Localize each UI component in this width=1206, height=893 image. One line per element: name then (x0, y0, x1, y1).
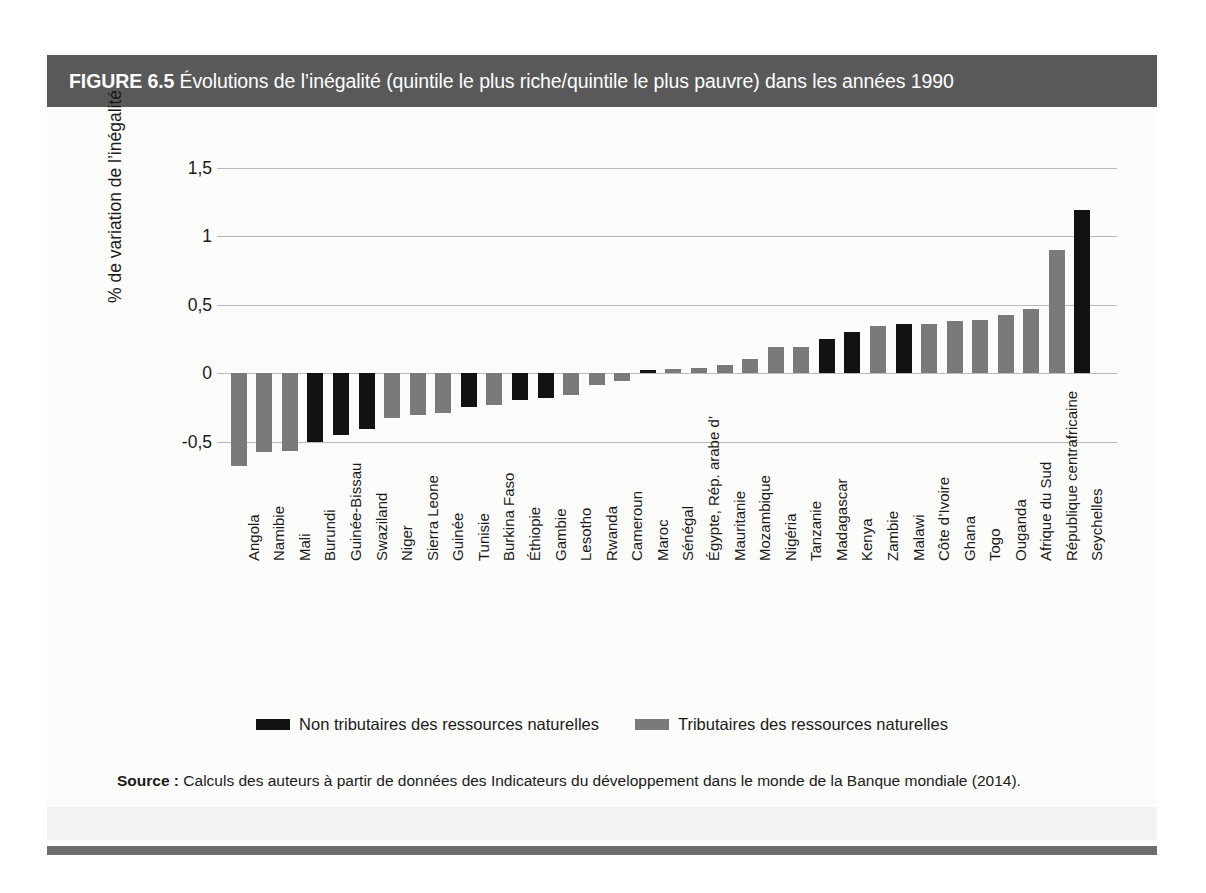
bar--thiopie (512, 373, 528, 400)
x-tick-label: Kenya (858, 518, 875, 561)
x-tick-label: Éthiopie (526, 507, 543, 561)
x-tick-label: Nigéria (782, 513, 799, 561)
bar-angola (231, 373, 247, 466)
x-tick-label: Ghana (961, 516, 978, 561)
x-tick-label: Égypte, Rép. arabe d’ (705, 416, 722, 561)
figure-title-text: Évolutions de l’inégalité (quintile le p… (180, 70, 954, 92)
x-tick-label: Burkina Faso (500, 473, 517, 561)
y-tick-label: -0,5 (152, 431, 212, 452)
x-tick-label: Seychelles (1088, 488, 1105, 561)
x-axis-labels: AngolaNamibieMaliBurundiGuinée-BissauSwa… (217, 555, 1117, 785)
bar-gambie (538, 373, 554, 398)
figure-bottom-rule (47, 846, 1157, 855)
bar-mali (282, 373, 298, 451)
x-tick-label: Cameroun (628, 491, 645, 561)
bar-nig-ria (768, 347, 784, 373)
legend-label: Tributaires des ressources naturelles (678, 715, 948, 734)
bar-burundi (307, 373, 323, 442)
x-tick-label: Malawi (910, 514, 927, 561)
bar-namibie (256, 373, 272, 452)
chart-area: % de variation de l’inégalité 1,510,50-0… (47, 107, 1157, 807)
bar-r-publique-centrafricaine (1049, 250, 1065, 373)
x-tick-label: Ouganda (1012, 499, 1029, 561)
bar-niger (384, 373, 400, 418)
bar-mozambique (742, 359, 758, 373)
bar-swaziland (359, 373, 375, 429)
x-tick-label: Rwanda (603, 506, 620, 561)
x-tick-label: Guinée (449, 513, 466, 561)
bar-togo (972, 320, 988, 373)
x-tick-label: Sénégal (679, 506, 696, 561)
bar-lesotho (563, 373, 579, 395)
bar-afrique-du-sud (1023, 309, 1039, 373)
x-tick-label: Angola (245, 514, 262, 561)
bar--gypte-r-p-arabe-d (691, 368, 707, 373)
source-label: Source : (117, 772, 179, 789)
x-tick-label: Sierra Leone (424, 475, 441, 561)
bar-sierra-leone (410, 373, 426, 415)
figure-page: FIGURE 6.5 Évolutions de l’inégalité (qu… (0, 0, 1206, 893)
y-tick-label: 1,5 (152, 157, 212, 178)
x-tick-label: Namibie (270, 506, 287, 561)
legend-item: Non tributaires des ressources naturelle… (256, 715, 599, 734)
x-tick-label: Niger (398, 525, 415, 561)
source-note: Source : Calculs des auteurs à partir de… (117, 772, 1157, 790)
bar-tunisie (461, 373, 477, 407)
y-tick-label: 1 (152, 226, 212, 247)
x-tick-label: Swaziland (373, 493, 390, 561)
x-tick-label: Maroc (654, 519, 671, 561)
x-tick-label: Mozambique (756, 475, 773, 561)
x-tick-label: Côte d’Ivoire (935, 477, 952, 561)
bar-ghana (947, 321, 963, 373)
bar-madagascar (819, 339, 835, 373)
bar-c-te-d-ivoire (921, 324, 937, 373)
x-tick-label: Afrique du Sud (1037, 462, 1054, 561)
chart-legend: Non tributaires des ressources naturelle… (47, 715, 1157, 734)
legend-item: Tributaires des ressources naturelles (635, 715, 948, 734)
legend-swatch (635, 719, 669, 730)
y-axis-label: % de variation de l’inégalité (105, 103, 129, 303)
bar-zambie (870, 326, 886, 373)
x-tick-label: Mali (296, 533, 313, 561)
bar-guin-e (435, 373, 451, 413)
x-tick-label: Togo (986, 528, 1003, 561)
bar-kenya (844, 332, 860, 373)
y-axis-ticks: 1,510,50-0,5 (152, 107, 212, 807)
x-tick-label: Madagascar (833, 478, 850, 561)
figure-title: FIGURE 6.5 Évolutions de l’inégalité (qu… (47, 70, 954, 93)
bar-cameroun (614, 373, 630, 381)
bar-burkina-faso (486, 373, 502, 405)
x-tick-label: Lesotho (577, 508, 594, 561)
y-tick-label: 0,5 (152, 294, 212, 315)
bar-maroc (640, 370, 656, 373)
figure-title-bar: FIGURE 6.5 Évolutions de l’inégalité (qu… (47, 55, 1157, 107)
bar-guin-e-bissau (333, 373, 349, 435)
bar-malawi (896, 324, 912, 373)
bar-rwanda (589, 373, 605, 385)
legend-label: Non tributaires des ressources naturelle… (299, 715, 599, 734)
x-tick-label: Zambie (884, 511, 901, 561)
figure-number: FIGURE 6.5 (69, 70, 174, 92)
x-tick-label: Burundi (321, 509, 338, 561)
bar-s-n-gal (665, 369, 681, 373)
source-text: Calculs des auteurs à partir de données … (179, 772, 1021, 789)
x-tick-label: République centrafricaine (1063, 391, 1080, 561)
bar-mauritanie (717, 365, 733, 373)
x-tick-label: Gambie (552, 508, 569, 561)
bar-ouganda (998, 315, 1014, 373)
x-tick-label: Tanzanie (807, 501, 824, 561)
x-tick-label: Mauritanie (731, 491, 748, 561)
x-tick-label: Guinée-Bissau (347, 463, 364, 561)
figure-body: % de variation de l’inégalité 1,510,50-0… (47, 107, 1157, 807)
legend-swatch (256, 719, 290, 730)
y-tick-label: 0 (152, 363, 212, 384)
bar-tanzanie (793, 347, 809, 373)
x-tick-label: Tunisie (475, 513, 492, 561)
bar-seychelles (1074, 210, 1090, 373)
